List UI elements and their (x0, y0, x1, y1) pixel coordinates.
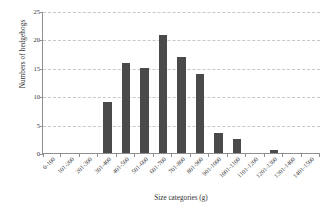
y-axis-tick-label: 25 (26, 9, 40, 16)
bar[interactable] (196, 74, 204, 153)
x-axis-title: Size categories (g) (42, 194, 320, 202)
x-axis-label-cell: 1401-1500 (302, 156, 320, 190)
bar-slot (61, 12, 79, 153)
plot-area (42, 12, 320, 154)
bar-slot (43, 12, 61, 153)
bar-slot (302, 12, 320, 153)
y-axis-tick-label: 20 (26, 37, 40, 44)
bar-chart: Numbers of hedgehogs 0510152025 0-100101… (0, 0, 329, 212)
y-axis-tick-labels: 0510152025 (26, 12, 40, 154)
y-axis-tick-label: 5 (26, 122, 40, 129)
bar-slot (154, 12, 172, 153)
bar-slot (172, 12, 190, 153)
bar-slot (98, 12, 116, 153)
bar[interactable] (140, 68, 148, 153)
y-axis-tick-mark (40, 97, 43, 98)
bar[interactable] (233, 139, 241, 153)
bar-slot (191, 12, 209, 153)
y-axis-tick-mark (40, 126, 43, 127)
x-axis-category-labels: 0-100101-200201-300301-400401-500501-600… (43, 156, 320, 190)
bar[interactable] (159, 35, 167, 153)
bar[interactable] (270, 150, 278, 153)
y-axis-tick-mark (40, 12, 43, 13)
bar-series (43, 12, 320, 153)
y-axis-tick-label: 10 (26, 94, 40, 101)
y-axis-tick-mark (40, 69, 43, 70)
bar-slot (209, 12, 227, 153)
y-axis-tick-mark (40, 40, 43, 41)
y-axis-tick-label: 15 (26, 66, 40, 73)
bar-slot (135, 12, 153, 153)
bar-slot (117, 12, 135, 153)
bar[interactable] (103, 102, 111, 153)
bar-slot (80, 12, 98, 153)
x-axis-category-label: 0-100 (42, 156, 57, 171)
bar[interactable] (177, 57, 185, 153)
bar-slot (228, 12, 246, 153)
bar-slot (283, 12, 301, 153)
bar[interactable] (122, 63, 130, 153)
y-axis-tick-label: 0 (26, 151, 40, 158)
y-axis-tick-mark (40, 154, 43, 155)
bar-slot (265, 12, 283, 153)
bar-slot (246, 12, 264, 153)
bar[interactable] (214, 133, 222, 153)
